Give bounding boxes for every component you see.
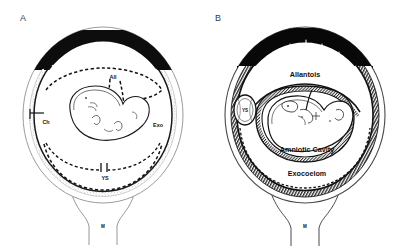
allantois-abbrev-a: All [110,74,117,80]
myometrium-abbrev-a: M [101,224,105,229]
amniotic-cavity-label-b: Amniotic Cavity [280,145,334,154]
yolk-sac-abbrev-a: YS [101,175,109,181]
exocoelom-label-b: Exocoelom [288,169,326,178]
chorion-abbrev-a: Ch [42,119,49,125]
allantois-label-b: Allantois [290,70,320,79]
panel-a-letter: A [20,13,26,23]
exocoelom-abbrev-a: Exo [153,122,164,128]
panel-b-letter: B [215,13,221,23]
embryology-figure: A [0,0,411,249]
yolk-sac-abbrev-b: YS [242,108,248,113]
myometrium-abbrev-b: M [303,224,307,229]
